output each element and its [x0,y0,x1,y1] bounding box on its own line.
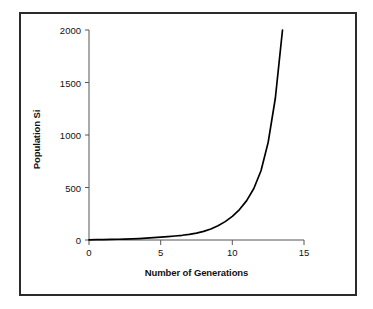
population-curve [89,30,283,240]
x-tick-label-5: 5 [158,247,163,258]
y-tick-label-500: 500 [48,182,81,193]
y-tick-label-2000: 2000 [48,25,81,36]
x-axis-title: Number of Generations [89,267,304,278]
figure: Population Si Number of Generations 0 50… [0,0,373,309]
x-tick-label-10: 10 [227,247,238,258]
x-tick-marks [89,240,304,245]
y-tick-label-0: 0 [48,235,81,246]
x-tick-label-0: 0 [86,247,91,258]
y-axis-title-text: Population Si [32,109,43,168]
plot-area [0,0,373,309]
x-tick-label-15: 15 [299,247,310,258]
y-tick-label-1500: 1500 [48,77,81,88]
y-axis-title: Population Si [26,78,48,200]
y-tick-marks [85,30,89,240]
y-tick-label-1000: 1000 [48,130,81,141]
